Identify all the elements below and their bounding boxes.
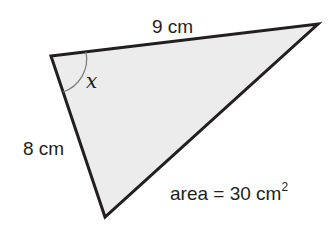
area-text: area = 30 cm: [170, 183, 281, 204]
angle-label: x: [86, 69, 97, 93]
left-side-label: 8 cm: [23, 138, 64, 159]
triangle-diagram: x 9 cm 8 cm area = 30 cm2: [0, 0, 336, 230]
area-exponent: 2: [281, 180, 288, 194]
area-label: area = 30 cm2: [170, 180, 288, 204]
top-side-label: 9 cm: [152, 16, 193, 37]
